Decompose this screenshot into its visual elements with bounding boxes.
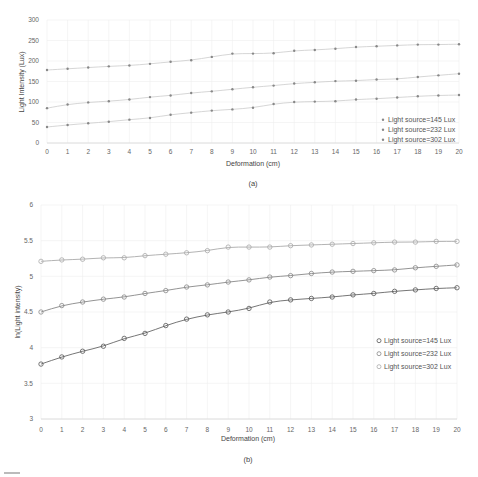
- chart-a-caption: (a): [248, 179, 258, 188]
- legend-marker-icon: [382, 119, 384, 121]
- y-tick-label: 5.5: [24, 237, 33, 244]
- x-tick-label: 20: [453, 426, 461, 433]
- data-point-marker: [437, 74, 439, 76]
- x-tick-label: 20: [455, 148, 463, 155]
- data-point-marker: [80, 300, 84, 304]
- data-point-marker: [108, 65, 110, 67]
- data-point-marker: [417, 76, 419, 78]
- trend-line: [41, 241, 457, 261]
- data-point-marker: [46, 107, 48, 109]
- data-point-marker: [272, 52, 274, 54]
- data-point-marker: [458, 43, 460, 45]
- data-point-marker: [226, 245, 230, 249]
- data-point-marker: [122, 256, 126, 260]
- data-point-marker: [80, 257, 84, 261]
- data-point-marker: [122, 295, 126, 299]
- data-point-marker: [205, 283, 209, 287]
- x-tick-label: 5: [143, 426, 147, 433]
- data-point-marker: [375, 45, 377, 47]
- data-point-marker: [108, 120, 110, 122]
- data-point-marker: [128, 64, 130, 66]
- data-point-marker: [372, 291, 376, 295]
- data-point-marker: [355, 46, 357, 48]
- data-point-marker: [372, 241, 376, 245]
- data-point-marker: [355, 98, 357, 100]
- data-point-marker: [392, 240, 396, 244]
- data-point-marker: [66, 103, 68, 105]
- data-point-marker: [252, 107, 254, 109]
- data-point-marker: [247, 278, 251, 282]
- y-tick-label: 4: [29, 344, 33, 351]
- data-point-marker: [87, 122, 89, 124]
- x-tick-label: 14: [329, 426, 337, 433]
- data-point-marker: [128, 118, 130, 120]
- chart-a-light-intensity: 0123456789101112131415161718192005010015…: [0, 0, 478, 195]
- x-tick-label: 1: [60, 426, 64, 433]
- x-tick-label: 18: [412, 426, 420, 433]
- x-tick-label: 17: [391, 426, 399, 433]
- data-point-marker: [375, 78, 377, 80]
- data-point-marker: [60, 258, 64, 262]
- data-point-marker: [143, 291, 147, 295]
- y-tick-label: 100: [28, 98, 39, 105]
- data-point-marker: [143, 253, 147, 257]
- data-point-marker: [169, 94, 171, 96]
- data-point-marker: [211, 90, 213, 92]
- data-point-marker: [355, 79, 357, 81]
- data-point-marker: [413, 266, 417, 270]
- data-point-marker: [334, 48, 336, 50]
- y-tick-label: 250: [28, 37, 39, 44]
- x-tick-label: 15: [352, 148, 360, 155]
- legend-item-label: Light source=302 Lux: [388, 136, 456, 144]
- chart-b-y-axis-title: ln(Light intensity): [14, 286, 22, 339]
- y-tick-label: 50: [32, 119, 40, 126]
- data-point-marker: [143, 331, 147, 335]
- x-tick-label: 3: [102, 426, 106, 433]
- x-tick-label: 2: [81, 426, 85, 433]
- clipped-figure-caption: [4, 472, 20, 474]
- data-point-marker: [87, 101, 89, 103]
- data-point-marker: [80, 349, 84, 353]
- data-point-marker: [437, 94, 439, 96]
- data-point-marker: [231, 88, 233, 90]
- x-tick-label: 6: [169, 148, 173, 155]
- x-tick-label: 1: [66, 148, 70, 155]
- data-point-marker: [309, 296, 313, 300]
- data-point-marker: [252, 86, 254, 88]
- x-tick-label: 11: [266, 426, 273, 433]
- data-point-marker: [149, 117, 151, 119]
- data-point-marker: [268, 245, 272, 249]
- x-tick-label: 7: [189, 148, 193, 155]
- data-point-marker: [205, 313, 209, 317]
- data-point-marker: [375, 98, 377, 100]
- data-point-marker: [46, 126, 48, 128]
- data-point-marker: [122, 336, 126, 340]
- x-tick-label: 4: [128, 148, 132, 155]
- y-tick-label: 0: [35, 139, 39, 146]
- data-point-marker: [149, 63, 151, 65]
- chart-b-series: [39, 239, 459, 366]
- data-point-marker: [39, 310, 43, 314]
- data-point-marker: [272, 103, 274, 105]
- data-point-marker: [101, 344, 105, 348]
- x-tick-label: 14: [332, 148, 340, 155]
- y-tick-label: 200: [28, 57, 39, 64]
- x-tick-label: 9: [226, 426, 230, 433]
- data-point-marker: [101, 256, 105, 260]
- chart-b-gridlines: [41, 205, 457, 419]
- x-tick-label: 7: [185, 426, 189, 433]
- chart-b-legend: Light source=145 LuxLight source=232 Lux…: [377, 337, 452, 371]
- data-point-marker: [288, 273, 292, 277]
- data-point-marker: [211, 56, 213, 58]
- data-point-marker: [293, 82, 295, 84]
- data-point-marker: [108, 100, 110, 102]
- data-point-marker: [330, 270, 334, 274]
- x-tick-label: 3: [107, 148, 111, 155]
- data-point-marker: [314, 49, 316, 51]
- data-point-marker: [314, 81, 316, 83]
- legend-marker-icon: [377, 339, 381, 343]
- legend-item-label: Light source=232 Lux: [388, 126, 456, 134]
- x-tick-label: 6: [164, 426, 168, 433]
- data-point-marker: [247, 306, 251, 310]
- data-point-marker: [205, 248, 209, 252]
